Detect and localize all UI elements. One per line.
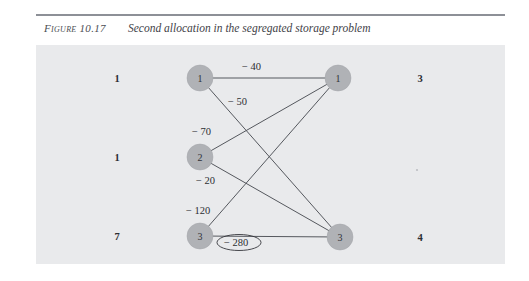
edge-l1-r3 xyxy=(208,87,332,228)
right-node-3-label: 3 xyxy=(338,232,343,243)
demand-value-3: 4 xyxy=(417,232,423,243)
edge-cost-l3-r1: − 120 xyxy=(186,205,210,216)
network-diagram: 12313 − 40− 50− 70− 20− 120− 280 11734 xyxy=(0,0,529,281)
edges-group xyxy=(208,78,332,237)
left-node-3-label: 3 xyxy=(198,231,203,242)
edge-cost-l2-r1: − 70 xyxy=(192,126,211,137)
supply-value-3: 7 xyxy=(114,231,119,242)
edge-l2-r1 xyxy=(210,84,327,151)
left-node-1-label: 1 xyxy=(198,73,203,84)
edge-cost-l1-r1: − 40 xyxy=(242,61,261,72)
edge-cost-l3-r3: − 280 xyxy=(224,237,248,248)
supply-demand-labels-group: 11734 xyxy=(114,73,423,243)
edge-cost-l2-r3: − 20 xyxy=(196,175,215,186)
supply-value-2: 1 xyxy=(114,152,119,163)
edge-l2-r3 xyxy=(210,163,329,231)
left-node-2-label: 2 xyxy=(198,152,203,163)
supply-value-1: 1 xyxy=(114,73,119,84)
right-node-1-label: 1 xyxy=(336,73,341,84)
paper-speck xyxy=(416,169,418,171)
demand-value-1: 3 xyxy=(417,73,422,84)
edge-cost-l1-r3: − 50 xyxy=(228,96,247,107)
figure-container: Figure 10.17 Second allocation in the se… xyxy=(0,0,529,281)
